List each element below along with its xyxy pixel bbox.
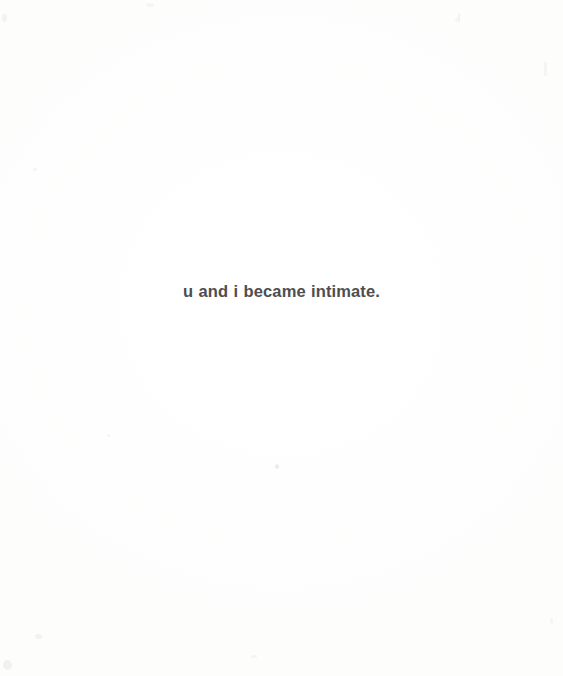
scan-speck	[550, 618, 553, 624]
scan-speck	[107, 434, 110, 437]
scan-speck	[544, 62, 547, 76]
scan-speck	[33, 168, 37, 171]
page-body-text-block: u and i became intimate.	[0, 281, 563, 301]
scan-speck	[2, 14, 7, 22]
page-body-line: u and i became intimate.	[183, 281, 380, 301]
paper-texture	[0, 0, 563, 676]
scan-speck	[458, 13, 460, 22]
scan-speck	[146, 3, 154, 7]
scan-speck	[35, 634, 42, 639]
scanned-page: u and i became intimate.	[0, 0, 563, 676]
scan-speck	[251, 655, 257, 658]
scan-speck	[275, 464, 279, 469]
scan-speck	[455, 18, 459, 22]
scan-speck	[3, 660, 12, 670]
